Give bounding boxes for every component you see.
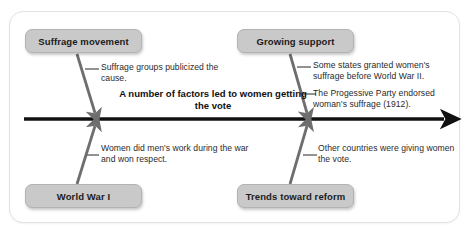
note-progressive-party: The Progessive Party endorsed woman's su… [313, 88, 468, 109]
category-box-world-war-i[interactable]: World War I [25, 184, 142, 208]
category-box-trends-toward-reform[interactable]: Trends toward reform [237, 184, 354, 208]
spine-title: A number of factors led to women getting… [118, 88, 308, 111]
fishbone-diagram: Suffrage movement Growing support World … [0, 0, 471, 236]
note-other-countries: Other countries were giving women the vo… [318, 143, 456, 164]
branch-suffrage-movement [77, 54, 95, 113]
note-states-granted: Some states granted women's suffrage bef… [313, 60, 463, 81]
category-box-growing-support[interactable]: Growing support [237, 29, 354, 53]
category-box-suffrage-movement[interactable]: Suffrage movement [25, 29, 142, 53]
note-suffrage-groups: Suffrage groups publicized the cause. [101, 62, 226, 83]
note-women-work: Women did men's work during the war and … [101, 143, 251, 164]
